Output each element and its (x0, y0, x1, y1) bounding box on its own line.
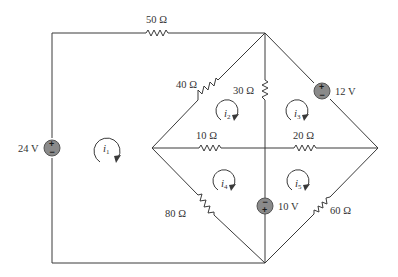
mesh-i4-sub: 4 (224, 183, 228, 191)
resistor-10-label: 10 Ω (196, 130, 217, 141)
resistor-30-ohm: 30 Ω (233, 33, 268, 148)
svg-text:i3: i3 (294, 107, 301, 121)
svg-text:i1: i1 (103, 142, 110, 156)
voltage-source-12v: + − 12 V (265, 33, 378, 148)
svg-text:i5: i5 (295, 177, 302, 191)
mesh-i3-sub: 3 (297, 113, 301, 121)
resistor-40-label: 40 Ω (176, 79, 197, 90)
source-24v-minus: − (50, 147, 55, 157)
resistor-50-label: 50 Ω (146, 14, 167, 25)
resistor-20-ohm: 20 Ω (265, 130, 378, 151)
resistor-50-ohm: 50 Ω (146, 14, 170, 36)
mesh-current-i4: i4 (213, 170, 236, 191)
resistor-30-label: 30 Ω (233, 85, 254, 96)
voltage-source-24v: + − 24 V (18, 139, 60, 157)
svg-text:i4: i4 (221, 177, 228, 191)
voltage-source-10v: − + 10 V (257, 148, 299, 263)
svg-text:i2: i2 (224, 107, 231, 121)
resistor-60-label: 60 Ω (330, 205, 351, 216)
source-24v-label: 24 V (18, 143, 39, 154)
mesh-current-i2: i2 (216, 100, 239, 121)
source-10v-label: 10 V (278, 201, 299, 212)
source-12v-label: 12 V (335, 86, 356, 97)
source-10v-plus: + (262, 205, 267, 215)
mesh-current-i3: i3 (286, 100, 309, 121)
resistor-10-ohm: 10 Ω (152, 130, 265, 151)
resistor-20-label: 20 Ω (293, 130, 314, 141)
resistor-80-label: 80 Ω (165, 208, 186, 219)
mesh-i2-sub: 2 (227, 113, 231, 121)
resistor-80-ohm: 80 Ω (152, 148, 265, 263)
mesh-i5-sub: 5 (298, 183, 302, 191)
mesh-i1-sub: 1 (106, 148, 110, 156)
mesh-current-i5: i5 (287, 170, 310, 191)
circuit-diagram: 50 Ω 40 Ω + − 12 V 30 Ω − + 10 V 10 Ω (0, 0, 398, 277)
mesh-current-i1: i1 (94, 138, 121, 163)
source-12v-minus: − (320, 90, 325, 100)
